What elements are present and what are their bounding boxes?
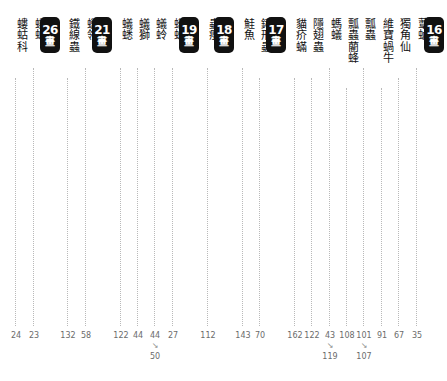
dotted-leader-line: [120, 68, 121, 326]
dotted-leader-line: [398, 78, 399, 326]
stroke-count-unit: 畫: [219, 37, 229, 47]
dotted-leader-line: [85, 68, 86, 326]
dotted-leader-line: [207, 68, 208, 326]
dotted-leader-line: [311, 78, 312, 326]
stroke-count-unit: 畫: [97, 37, 107, 47]
index-column-strip: 螻蛄科24螻蛄2326畫鐵線蟲132蠟鴒5821畫蟻蟋122蟻獅44蟻蛉44↘5…: [0, 0, 447, 381]
dotted-leader-line: [172, 68, 173, 326]
dotted-leader-line: [381, 88, 382, 326]
dotted-leader-line: [259, 78, 260, 326]
stroke-count-number: 16: [426, 24, 442, 36]
stroke-count-badge: 16畫: [424, 17, 444, 53]
stroke-count-number: 17: [268, 24, 284, 36]
stroke-count-badge: 19畫: [179, 17, 199, 53]
dotted-leader-line: [33, 68, 34, 326]
stroke-count-badge: 18畫: [214, 17, 234, 53]
dotted-leader-line: [346, 88, 347, 326]
stroke-count-badge-column: 16畫: [423, 0, 445, 381]
dotted-leader-line: [15, 78, 16, 326]
stroke-count-unit: 畫: [45, 37, 55, 47]
stroke-count-number: 19: [181, 24, 197, 36]
stroke-count-number: 26: [42, 24, 58, 36]
stroke-count-badge: 21畫: [92, 17, 112, 53]
stroke-count-unit: 畫: [271, 37, 281, 47]
stroke-count-unit: 畫: [184, 37, 194, 47]
stroke-count-number: 18: [216, 24, 232, 36]
dotted-leader-line: [363, 68, 364, 326]
dotted-leader-line: [154, 68, 155, 326]
dotted-leader-line: [294, 78, 295, 326]
dotted-leader-line: [416, 68, 417, 326]
dotted-leader-line: [242, 68, 243, 326]
stroke-count-unit: 畫: [429, 37, 439, 47]
stroke-count-badge: 17畫: [266, 17, 286, 53]
dotted-leader-line: [137, 68, 138, 326]
stroke-count-number: 21: [94, 24, 110, 36]
dotted-leader-line: [67, 78, 68, 326]
dotted-leader-line: [329, 68, 330, 326]
